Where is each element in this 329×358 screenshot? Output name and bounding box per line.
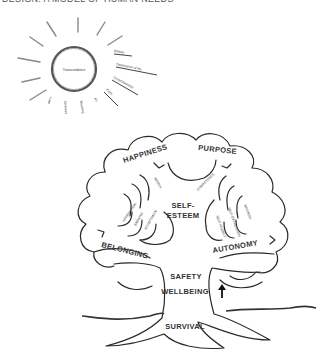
branch-mastery: MASTERY xyxy=(243,204,252,221)
branch-self-expression: SELF-EXPRESSION xyxy=(227,207,241,238)
need-self-esteem-2: ESTEEM xyxy=(167,211,200,220)
branch-worth: WORTH xyxy=(153,177,163,190)
sun-ray-labels: Beauty Celebration of life Consciousness… xyxy=(47,49,157,115)
need-wellbeing: WELLBEING xyxy=(161,287,209,296)
ray-label: Love xyxy=(47,97,53,105)
ray-label: Meaning xyxy=(79,100,85,113)
up-arrow-icon xyxy=(218,284,226,298)
ray-label: Beauty xyxy=(114,49,125,54)
sun-icon xyxy=(18,18,122,100)
branch-competence: COMPETENCE xyxy=(196,172,216,192)
ray-label: Oneness xyxy=(63,101,68,115)
sun-center-label: Transcendence xyxy=(63,68,86,72)
ray-label: Art xyxy=(93,97,98,103)
branch-self-agency: SELF-AGENCY xyxy=(215,215,227,239)
branch-empathy: EMPATHY xyxy=(133,210,145,226)
human-needs-diagram: Transcendence Beauty Celebration of life… xyxy=(0,0,329,358)
need-safety: SAFETY xyxy=(170,272,201,281)
need-self-esteem-1: SELF- xyxy=(171,201,194,210)
need-survival: SURVIVAL xyxy=(165,322,205,331)
need-happiness: HAPPINESS xyxy=(122,142,169,165)
need-belonging: BELONGING xyxy=(101,240,150,260)
need-purpose: PURPOSE xyxy=(198,143,238,156)
